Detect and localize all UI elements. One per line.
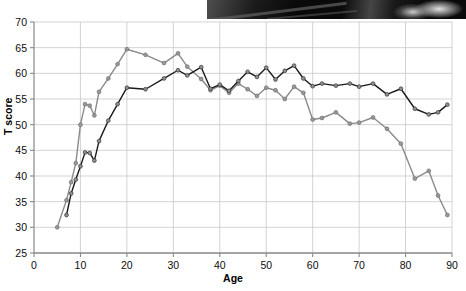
data-point <box>144 53 148 57</box>
data-point <box>69 180 73 184</box>
data-point <box>79 123 83 127</box>
data-point <box>436 110 440 114</box>
data-point <box>97 90 101 94</box>
data-point <box>385 127 389 131</box>
data-point <box>445 213 449 217</box>
y-tick-label: 55 <box>3 94 27 105</box>
data-point <box>385 92 389 96</box>
y-tick-label: 40 <box>3 171 27 182</box>
data-point <box>83 150 87 154</box>
y-tick-label: 60 <box>3 68 27 79</box>
data-point <box>106 77 110 81</box>
data-point <box>348 82 352 86</box>
data-point <box>427 169 431 173</box>
data-point <box>264 66 268 70</box>
y-tick-label: 30 <box>3 222 27 233</box>
data-point <box>427 113 431 117</box>
data-point <box>246 87 250 91</box>
data-point <box>301 77 305 81</box>
data-point <box>311 84 315 88</box>
y-tick-label: 50 <box>3 120 27 131</box>
data-point <box>125 47 129 51</box>
data-point <box>162 61 166 65</box>
x-tick-label: 60 <box>298 260 328 271</box>
x-tick-label: 10 <box>65 260 95 271</box>
data-point <box>357 85 361 89</box>
data-point <box>246 70 250 74</box>
data-point <box>320 116 324 120</box>
y-tick-label: 25 <box>3 248 27 259</box>
data-point <box>116 102 120 106</box>
series-line <box>57 49 447 227</box>
x-tick-label: 20 <box>112 260 142 271</box>
data-point <box>185 73 189 77</box>
y-tick-label: 70 <box>3 17 27 28</box>
data-point <box>209 87 213 91</box>
data-point <box>88 104 92 108</box>
data-point <box>236 79 240 83</box>
x-tick-label: 50 <box>251 260 281 271</box>
x-axis-title: Age <box>0 272 466 284</box>
data-point <box>97 139 101 143</box>
plot-canvas <box>0 0 466 291</box>
chart-figure: T score Age 2530354045505560657001020304… <box>0 0 466 291</box>
data-point <box>199 65 203 69</box>
y-tick-label: 45 <box>3 145 27 156</box>
data-point <box>445 103 449 107</box>
data-point <box>176 51 180 55</box>
data-point <box>399 142 403 146</box>
x-tick-label: 30 <box>158 260 188 271</box>
data-point <box>65 198 69 202</box>
data-point <box>162 77 166 81</box>
x-tick-label: 0 <box>19 260 49 271</box>
data-point <box>357 121 361 125</box>
series-line <box>67 66 448 215</box>
data-point <box>88 151 92 155</box>
data-point <box>199 77 203 81</box>
data-point <box>92 114 96 118</box>
data-point <box>227 89 231 93</box>
data-point <box>274 88 278 92</box>
data-point <box>106 119 110 123</box>
data-point <box>301 91 305 95</box>
data-point <box>218 83 222 87</box>
data-point <box>55 225 59 229</box>
data-point <box>116 62 120 66</box>
x-tick-label: 90 <box>437 260 466 271</box>
data-point <box>125 86 129 90</box>
data-point <box>292 85 296 89</box>
data-point <box>264 86 268 90</box>
data-point <box>348 122 352 126</box>
data-point <box>371 82 375 86</box>
data-point <box>436 194 440 198</box>
data-point <box>320 82 324 86</box>
data-point <box>74 161 78 165</box>
series-lower-series <box>65 64 450 217</box>
y-tick-label: 65 <box>3 43 27 54</box>
data-point <box>65 213 69 217</box>
x-tick-label: 40 <box>205 260 235 271</box>
data-point <box>283 97 287 101</box>
data-point <box>79 164 83 168</box>
data-point <box>413 107 417 111</box>
data-point <box>334 84 338 88</box>
data-point <box>399 87 403 91</box>
data-point <box>83 102 87 106</box>
data-point <box>69 192 73 196</box>
data-point <box>144 87 148 91</box>
data-point <box>74 178 78 182</box>
y-tick-label: 35 <box>3 197 27 208</box>
data-point <box>334 110 338 114</box>
data-point <box>92 159 96 163</box>
data-point <box>185 65 189 69</box>
x-tick-label: 80 <box>391 260 421 271</box>
data-point <box>292 64 296 68</box>
data-point <box>255 94 259 98</box>
data-point <box>311 118 315 122</box>
data-point <box>255 75 259 79</box>
data-point <box>413 177 417 181</box>
x-tick-label: 70 <box>344 260 374 271</box>
data-point <box>176 68 180 72</box>
data-point <box>371 116 375 120</box>
data-point <box>283 69 287 73</box>
